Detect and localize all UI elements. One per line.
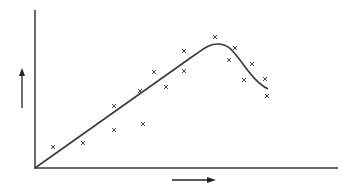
fit-curve bbox=[35, 44, 268, 168]
x-arrow-icon bbox=[172, 177, 216, 183]
data-points bbox=[51, 35, 269, 149]
y-arrow-icon bbox=[19, 68, 25, 108]
chart bbox=[0, 0, 356, 190]
